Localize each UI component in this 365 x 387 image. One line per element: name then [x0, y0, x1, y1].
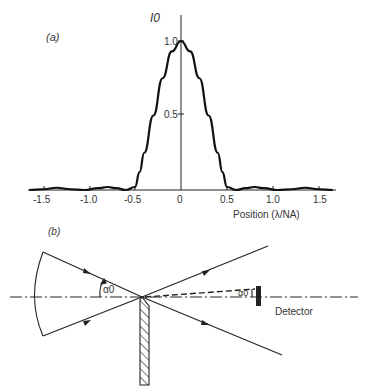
incident-ray-upper — [43, 252, 142, 297]
incident-ray-lower — [43, 297, 142, 336]
detector-label: Detector — [275, 306, 313, 317]
x-tick-neg-0-5: -0.5 — [124, 194, 142, 205]
x-axis: -1.5 -1.0 -0.5 0 0.5 1.0 1.5 Position (λ… — [28, 186, 336, 220]
detector-block — [256, 286, 261, 306]
panel-b-label: (b) — [48, 226, 60, 237]
y-axis-label: I0 — [150, 11, 160, 25]
alpha-detector-label: α0 — [238, 288, 248, 298]
panel-a-label: (a) — [46, 31, 60, 43]
alpha-incident-label: α0 — [103, 284, 115, 295]
x-tick-0-5: 0.5 — [220, 194, 234, 205]
x-tick-1-0: 1.0 — [266, 194, 280, 205]
x-tick-neg-1-5: -1.5 — [33, 194, 51, 205]
figure: (a) I0 1.0 0.5 -1.5 -1.0 -0.5 0 0.5 1.0 … — [0, 0, 365, 387]
knife-edge — [140, 297, 149, 385]
y-tick-0-5: 0.5 — [164, 109, 178, 120]
x-tick-0: 0 — [177, 194, 183, 205]
x-tick-neg-1-0: -1.0 — [80, 194, 98, 205]
x-tick-1-5: 1.5 — [313, 194, 327, 205]
x-axis-label: Position (λ/NA) — [233, 209, 300, 220]
lens-arc — [35, 252, 44, 336]
